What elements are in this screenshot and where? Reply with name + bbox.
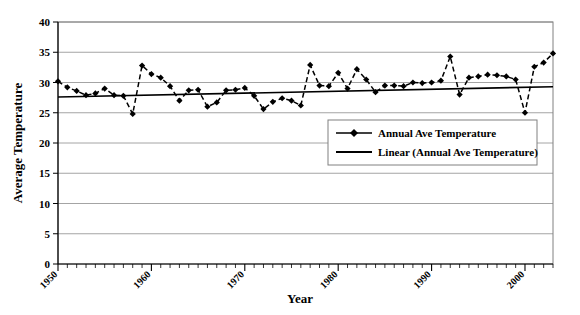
chart-legend[interactable]: Annual Ave Temperature Linear (Annual Av… [328,120,538,165]
legend-label-series1: Annual Ave Temperature [378,127,496,139]
chart-container: 0510152025303540 19501960197019801990200… [0,0,580,315]
legend-label-series2: Linear (Annual Ave Temperature) [378,146,538,159]
y-tick-label: 10 [39,198,51,210]
y-tick-label: 25 [39,107,51,119]
y-tick-label: 40 [39,16,51,28]
y-tick-label: 20 [39,137,51,149]
y-tick-label: 5 [45,228,51,240]
y-tick-label: 30 [39,77,51,89]
y-tick-label: 15 [39,167,51,179]
temperature-line-chart: 0510152025303540 19501960197019801990200… [0,0,580,315]
x-axis-title: Year [287,291,313,306]
y-tick-label: 35 [39,46,51,58]
y-axis-title: Average Temperature [10,83,25,204]
y-tick-label: 0 [45,258,51,270]
